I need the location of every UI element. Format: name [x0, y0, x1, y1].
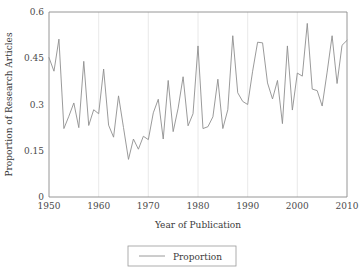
x-tick-label-1960: 1960	[87, 201, 110, 211]
y-tick-label-045: 0.45	[24, 53, 44, 63]
x-tick-label-1950: 1950	[38, 201, 61, 211]
gridlines	[99, 12, 298, 197]
x-tick-label-1990: 1990	[236, 201, 259, 211]
chart-figure: 0 0.15 0.3 0.45 0.6 1950 1960 1970 1980 …	[0, 0, 363, 272]
x-tick-label-1970: 1970	[137, 201, 160, 211]
x-tick-label-1980: 1980	[187, 201, 210, 211]
x-tick-label-2010: 2010	[336, 201, 359, 211]
y-tick-label-06: 0.6	[30, 7, 45, 17]
legend: Proportion	[128, 246, 236, 266]
y-axis-ticks: 0 0.15 0.3 0.45 0.6	[24, 7, 44, 202]
x-tick-label-2000: 2000	[286, 201, 309, 211]
y-axis-title: Proportion of Research Articles	[4, 32, 14, 176]
legend-label-proportion: Proportion	[173, 252, 222, 262]
line-chart-svg: 0 0.15 0.3 0.45 0.6 1950 1960 1970 1980 …	[0, 0, 363, 272]
y-tick-label-015: 0.15	[24, 146, 44, 156]
x-axis-ticks: 1950 1960 1970 1980 1990 2000 2010	[38, 201, 359, 211]
x-axis-title: Year of Publication	[154, 220, 241, 230]
y-tick-label-03: 0.3	[30, 100, 45, 110]
